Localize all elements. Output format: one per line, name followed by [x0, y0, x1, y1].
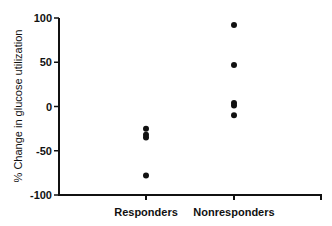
y-tick-label: -100	[30, 189, 52, 201]
data-point	[143, 173, 149, 179]
y-tick-label: 50	[40, 56, 52, 68]
data-point	[143, 126, 149, 132]
data-point	[231, 103, 237, 109]
axes: 100500-50-100RespondersNonresponders	[30, 12, 321, 218]
x-category-label: Nonresponders	[193, 206, 274, 218]
y-tick-label: -50	[36, 145, 52, 157]
y-tick-label: 0	[46, 101, 52, 113]
data-point	[231, 112, 237, 118]
data-point	[143, 134, 149, 140]
scatter-chart: 100500-50-100RespondersNonresponders % C…	[0, 0, 332, 226]
x-category-label: Responders	[114, 206, 178, 218]
y-axis-title: % Change in glucose utilization	[12, 30, 24, 183]
data-points	[143, 22, 237, 178]
data-point	[231, 22, 237, 28]
y-tick-label: 100	[34, 12, 52, 24]
data-point	[231, 62, 237, 68]
